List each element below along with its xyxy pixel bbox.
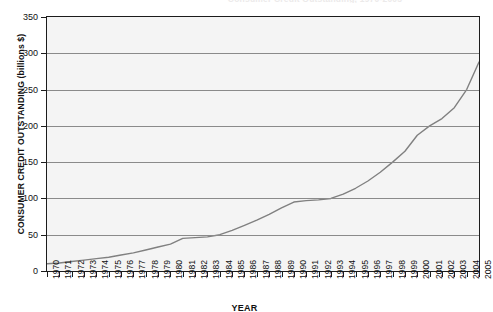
gridline-300 [47, 53, 479, 54]
x-tick-mark [319, 272, 320, 277]
x-tick-mark [356, 272, 357, 277]
y-tick-label: 350 [23, 12, 38, 22]
y-tick-200: 200 [0, 126, 46, 127]
x-tick-mark [269, 272, 270, 277]
plot-area [46, 16, 480, 272]
y-tick-mark [41, 17, 46, 18]
x-tick-mark [195, 272, 196, 277]
y-tick-label: 0 [33, 266, 38, 276]
x-tick-mark [109, 272, 110, 277]
x-tick-mark [207, 272, 208, 277]
x-tick-mark [232, 272, 233, 277]
x-tick-mark [430, 272, 431, 277]
y-axis-title: CONSUMER CREDIT OUTSTANDING (billions $) [16, 9, 26, 259]
y-tick-label: 150 [23, 157, 38, 167]
x-tick-mark [380, 272, 381, 277]
y-tick-100: 100 [0, 198, 46, 199]
y-tick-label: 50 [28, 230, 38, 240]
y-tick-mark [41, 90, 46, 91]
x-tick-mark [121, 272, 122, 277]
gridline-250 [47, 90, 479, 91]
x-tick-mark [96, 272, 97, 277]
y-tick-mark [41, 162, 46, 163]
y-tick-mark [41, 126, 46, 127]
y-tick-50: 50 [0, 235, 46, 236]
y-tick-mark [41, 271, 46, 272]
x-tick-mark [170, 272, 171, 277]
x-tick-mark [158, 272, 159, 277]
x-tick-mark [294, 272, 295, 277]
y-tick-label: 250 [23, 85, 38, 95]
x-tick-mark [220, 272, 221, 277]
y-tick-mark [41, 53, 46, 54]
y-tick-label: 300 [23, 48, 38, 58]
x-tick-mark [133, 272, 134, 277]
y-tick-350: 350 [0, 17, 46, 18]
x-tick-mark [84, 272, 85, 277]
x-tick-mark [467, 272, 468, 277]
x-tick-mark [343, 272, 344, 277]
y-tick-label: 200 [23, 121, 38, 131]
x-tick-mark [282, 272, 283, 277]
x-tick-mark [368, 272, 369, 277]
gridline-150 [47, 162, 479, 163]
x-tick-mark [393, 272, 394, 277]
chart-title: Consumer Credit Outstanding, 1970-2005 [150, 0, 480, 3]
y-tick-150: 150 [0, 162, 46, 163]
x-tick-mark [257, 272, 258, 277]
gridline-100 [47, 198, 479, 199]
x-tick-mark [47, 272, 48, 277]
x-tick-label: 2005 [483, 260, 493, 279]
y-tick-label: 100 [23, 193, 38, 203]
x-tick-mark [479, 272, 480, 277]
x-tick-mark [405, 272, 406, 277]
x-tick-mark [72, 272, 73, 277]
gridline-50 [47, 235, 479, 236]
x-tick-mark [59, 272, 60, 277]
y-tick-mark [41, 198, 46, 199]
x-tick-mark [454, 272, 455, 277]
x-tick-mark [417, 272, 418, 277]
gridline-200 [47, 126, 479, 127]
series-line-consumer-credit [47, 17, 479, 271]
x-axis-title: YEAR [0, 303, 489, 312]
y-tick-300: 300 [0, 53, 46, 54]
x-tick-mark [183, 272, 184, 277]
y-tick-250: 250 [0, 90, 46, 91]
x-tick-mark [244, 272, 245, 277]
y-tick-0: 0 [0, 271, 46, 272]
x-tick-mark [146, 272, 147, 277]
y-tick-mark [41, 235, 46, 236]
x-tick-mark [306, 272, 307, 277]
x-tick-mark [331, 272, 332, 277]
x-tick-mark [442, 272, 443, 277]
